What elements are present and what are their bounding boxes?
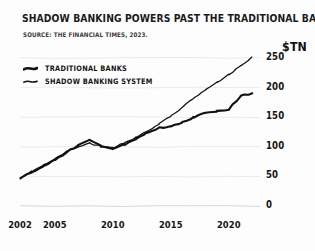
- gridlines: [20, 58, 260, 207]
- series-line: [20, 93, 252, 178]
- gridline: [20, 117, 260, 118]
- y-axis-tick-label: 250: [266, 51, 284, 62]
- gridline: [20, 206, 260, 207]
- x-axis-tick-label: 2005: [41, 219, 69, 230]
- gridline: [20, 176, 260, 177]
- y-axis-tick-label: 200: [266, 81, 284, 92]
- y-axis-tick-label: 100: [266, 140, 284, 151]
- x-axis-tick-label: 2010: [99, 219, 127, 230]
- gridline: [20, 58, 260, 59]
- chart-page: SHADOW BANKING POWERS PAST THE TRADITION…: [0, 0, 315, 251]
- gridline: [20, 146, 260, 147]
- y-axis-tick-label: 150: [266, 111, 284, 122]
- x-axis-tick-label: 2002: [6, 219, 34, 230]
- x-axis-tick-label: 2020: [215, 219, 243, 230]
- y-axis-tick-label: 0: [266, 199, 272, 210]
- series-lines: [20, 57, 252, 178]
- chart-plot-area: [0, 0, 315, 251]
- gridline: [20, 87, 260, 88]
- y-axis-tick-label: 50: [266, 170, 278, 181]
- x-axis-tick-label: 2015: [157, 219, 185, 230]
